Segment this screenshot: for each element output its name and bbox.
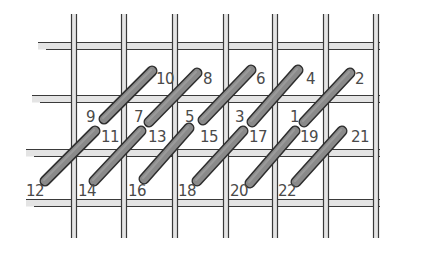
vertical-thread	[324, 14, 329, 238]
point-label-1: 1	[290, 108, 299, 126]
point-label-10: 10	[156, 70, 174, 88]
point-label-3: 3	[235, 108, 244, 126]
point-label-15: 15	[200, 128, 218, 146]
point-label-12: 12	[26, 182, 44, 200]
vertical-thread	[173, 14, 178, 238]
point-label-21: 21	[351, 128, 369, 146]
point-label-11: 11	[101, 128, 119, 146]
point-label-19: 19	[300, 128, 318, 146]
point-label-18: 18	[178, 182, 196, 200]
point-label-4: 4	[306, 70, 315, 88]
point-label-22: 22	[278, 182, 296, 200]
point-label-20: 20	[230, 182, 248, 200]
vertical-thread	[224, 14, 229, 238]
point-label-17: 17	[249, 128, 267, 146]
point-label-9: 9	[86, 108, 95, 126]
vertical-thread	[273, 14, 278, 238]
point-label-7: 7	[134, 108, 143, 126]
point-label-5: 5	[185, 108, 194, 126]
stitch-10-to-9	[103, 70, 152, 119]
point-label-2: 2	[355, 70, 364, 88]
point-label-13: 13	[148, 128, 166, 146]
vertical-thread	[122, 14, 127, 238]
point-label-6: 6	[256, 70, 265, 88]
point-label-14: 14	[78, 182, 96, 200]
stitches	[44, 69, 350, 183]
point-label-16: 16	[128, 182, 146, 200]
point-label-8: 8	[203, 70, 212, 88]
vertical-thread	[72, 14, 77, 238]
stitch-diagram: 10864297531111315171921121416182022	[0, 0, 422, 254]
vertical-thread	[374, 14, 379, 238]
